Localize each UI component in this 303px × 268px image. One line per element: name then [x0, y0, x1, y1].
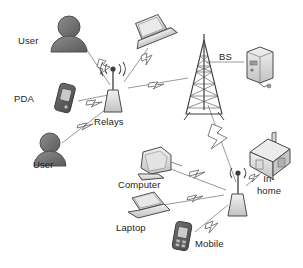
node-cell-tower [184, 34, 224, 120]
lightning-bolt-icon [208, 124, 227, 149]
lightning-bolt-icon [77, 123, 93, 130]
label-pda: PDA [14, 94, 34, 105]
node-computer [138, 147, 182, 180]
lightning-bolt-icon [86, 100, 102, 107]
label-relays: Relays [94, 117, 124, 128]
label-user-top: User [18, 36, 38, 47]
lightning-bolt-icon [148, 82, 164, 89]
node-relay-lower [228, 168, 247, 216]
label-user-bottom: User [33, 160, 53, 171]
node-bs-server [247, 47, 273, 88]
label-bs: BS [219, 52, 232, 63]
node-user-top [51, 16, 87, 52]
node-pda [54, 82, 76, 113]
node-house [250, 132, 290, 179]
link-laptop-top-relay [124, 48, 148, 82]
label-mobile: Mobile [195, 239, 224, 250]
node-laptop-top [128, 10, 177, 48]
label-computer: Computer [118, 180, 161, 191]
lightning-bolt-icon [141, 53, 152, 65]
label-in-home-line1: In- [252, 174, 286, 185]
lightning-bolt-icon [97, 59, 110, 74]
diagram-canvas [0, 0, 303, 268]
network-diagram: User PDA Relays User BS Computer Laptop … [0, 0, 303, 268]
node-laptop [128, 192, 170, 218]
node-mobile [172, 221, 193, 251]
label-laptop: Laptop [116, 223, 146, 234]
label-in-home-line2: home [250, 186, 288, 197]
